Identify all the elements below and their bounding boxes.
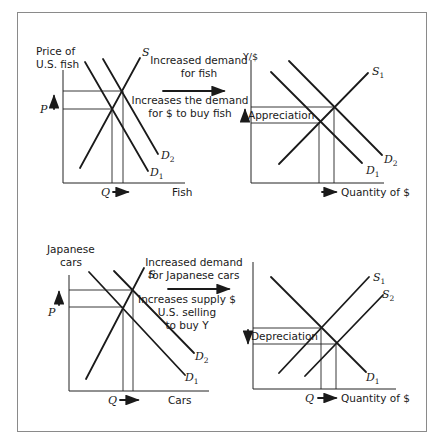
supply-label: S [142, 46, 150, 59]
demand2-label: D2 [160, 149, 175, 164]
x-axis-label: Cars [168, 394, 192, 406]
supply1-label: S1 [372, 65, 384, 80]
depreciation-label: Depreciation [251, 330, 318, 342]
supply-curve [80, 58, 140, 168]
annotation-line4: for $ to buy fish [148, 107, 231, 119]
old-equilibrium-guides [251, 123, 319, 183]
supply2-label: S2 [382, 288, 395, 303]
y-axis-label-line1: Price of [36, 45, 75, 57]
new-equilibrium-guides [253, 344, 336, 389]
x-axis-label: Quantity of $ [341, 392, 410, 404]
annotation-line2: for fish [181, 67, 218, 79]
demand-curve-d1 [271, 277, 366, 372]
demand2-label: D2 [383, 153, 398, 168]
annotation-line3: Increases supply $ [138, 293, 236, 305]
quantity-label: Q [305, 392, 314, 405]
appreciation-label: Appreciation [248, 109, 314, 121]
demand1-label: D1 [365, 371, 380, 386]
x-axis-label: Quantity of $ [341, 186, 410, 198]
dollar-depreciation-chart: Depreciation S1 S2 D1 Q Quantity of $ [248, 262, 410, 405]
y-axis-label-line2: U.S. fish [36, 58, 79, 70]
supply-curve [86, 268, 144, 379]
price-label: P [39, 103, 48, 116]
quantity-label: Q [108, 394, 117, 407]
price-label: P [47, 306, 56, 319]
x-axis-label: Fish [172, 186, 192, 198]
annotation-line3: Increases the demand [132, 94, 249, 106]
annotation-line2: for Japanese cars [149, 269, 240, 281]
y-axis-label: Y/$ [242, 51, 258, 62]
supply-curve-s1 [279, 277, 369, 373]
diagram-canvas: Price of U.S. fish P Q Fish S D2 D1 Incr… [0, 0, 437, 443]
demand1-label: D1 [184, 371, 199, 386]
demand2-label: D2 [194, 350, 209, 365]
annotation-line1: Increased demand [150, 54, 248, 66]
demand-curve-d2 [289, 61, 382, 155]
annotation-line1: Increased demand [145, 256, 243, 268]
fish-to-dollar-annotation: Increased demand for fish Increases the … [132, 54, 249, 119]
y-axis-label-line2: cars [60, 256, 82, 268]
demand1-label: D1 [365, 164, 380, 179]
old-equilibrium-guides [69, 307, 123, 391]
cars-to-dollar-annotation: Increased demand for Japanese cars Incre… [138, 256, 243, 331]
annotation-line4: U.S. selling [158, 306, 216, 318]
dollar-appreciation-chart: Y/$ Appreciation S1 D2 D1 Quantity of $ [242, 51, 410, 198]
quantity-label: Q [101, 186, 110, 199]
annotation-line5: to buy Y [165, 319, 209, 331]
y-axis-label-line1: Japanese [46, 243, 95, 255]
fish-market-chart: Price of U.S. fish P Q Fish S D2 D1 [36, 45, 192, 199]
demand-curve-d1 [85, 62, 148, 171]
demand1-label: D1 [149, 166, 164, 181]
old-equilibrium-guides [63, 109, 112, 183]
supply1-label: S1 [373, 271, 385, 286]
